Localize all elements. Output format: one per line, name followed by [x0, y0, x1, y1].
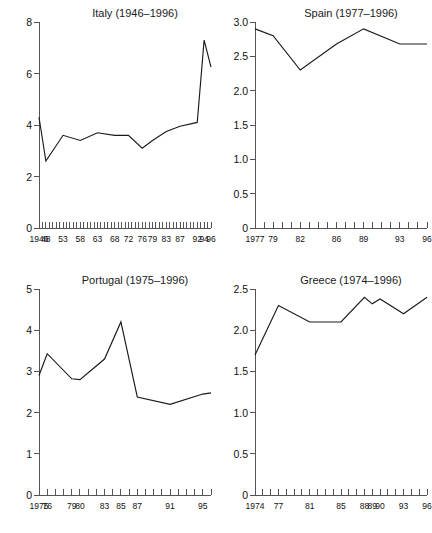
x-tick-label: 85	[336, 501, 346, 511]
chart-svg-spain: Spain (1977–1996)00.51.01.52.02.53.01977…	[216, 0, 432, 266]
y-tick-label: 8	[26, 16, 32, 28]
y-tick-label: 2.0	[233, 324, 248, 336]
y-tick-label: 2.5	[233, 50, 248, 62]
x-tick-label: 93	[395, 234, 405, 244]
y-tick-label: 0.5	[233, 448, 248, 460]
x-tick-label: 68	[110, 234, 120, 244]
y-tick-label: 1.0	[233, 407, 248, 419]
x-tick-label: 58	[76, 234, 86, 244]
chart-data-line	[39, 40, 211, 161]
y-tick-label: 5	[26, 283, 32, 295]
y-tick-label: 2.0	[233, 85, 248, 97]
y-tick-label: 2.5	[233, 283, 248, 295]
x-tick-label: 48	[41, 234, 51, 244]
x-tick-label: 1977	[246, 234, 265, 244]
x-tick-label: 63	[93, 234, 103, 244]
y-tick-label: 3.0	[233, 16, 248, 28]
chart-data-line	[39, 322, 211, 404]
chart-panel-greece: Greece (1974–1996)00.51.01.52.02.5197477…	[216, 267, 432, 533]
chart-panel-portugal: Portugal (1975–1996)01234519757679808385…	[0, 267, 216, 533]
x-tick-label: 1974	[246, 501, 265, 511]
y-tick-label: 0	[242, 489, 248, 501]
x-tick-label: 86	[332, 234, 342, 244]
chart-axes	[255, 289, 427, 495]
y-tick-label: 6	[26, 68, 32, 80]
chart-panel-spain: Spain (1977–1996)00.51.01.52.02.53.01977…	[216, 0, 432, 266]
y-tick-label: 4	[26, 119, 32, 131]
x-tick-label: 76	[42, 501, 52, 511]
chart-panel-italy: Italy (1946–1996)02468194648535863687276…	[0, 0, 216, 266]
x-tick-label: 83	[162, 234, 172, 244]
x-tick-label: 96	[206, 234, 216, 244]
x-tick-label: 91	[165, 501, 175, 511]
chart-svg-greece: Greece (1974–1996)00.51.01.52.02.5197477…	[216, 267, 432, 533]
x-tick-label: 89	[359, 234, 369, 244]
chart-title: Greece (1974–1996)	[300, 274, 402, 286]
x-tick-label: 90	[375, 501, 385, 511]
x-tick-label: 81	[305, 501, 315, 511]
x-tick-label: 93	[399, 501, 409, 511]
chart-svg-portugal: Portugal (1975–1996)01234519757679808385…	[0, 267, 216, 533]
chart-data-line	[255, 297, 427, 355]
y-tick-label: 2	[26, 171, 32, 183]
y-tick-label: 0	[242, 222, 248, 234]
y-tick-label: 1.0	[233, 153, 248, 165]
x-tick-label: 96	[422, 234, 432, 244]
y-tick-label: 0	[26, 489, 32, 501]
chart-title: Portugal (1975–1996)	[82, 274, 188, 286]
chart-axes	[255, 22, 427, 228]
x-tick-label: 87	[133, 501, 143, 511]
y-tick-label: 1.5	[233, 365, 248, 377]
chart-title: Italy (1946–1996)	[92, 7, 178, 19]
x-tick-label: 87	[175, 234, 185, 244]
x-tick-label: 82	[296, 234, 306, 244]
chart-svg-italy: Italy (1946–1996)02468194648535863687276…	[0, 0, 216, 266]
y-tick-label: 3	[26, 365, 32, 377]
x-tick-label: 79	[268, 234, 278, 244]
x-tick-label: 77	[274, 501, 284, 511]
y-tick-label: 0	[26, 222, 32, 234]
chart-data-line	[255, 29, 427, 70]
x-tick-label: 76	[137, 234, 147, 244]
y-tick-label: 1.5	[233, 119, 248, 131]
y-tick-label: 1	[26, 448, 32, 460]
chart-axes	[39, 289, 211, 495]
y-tick-label: 2	[26, 407, 32, 419]
x-tick-label: 96	[422, 501, 432, 511]
y-tick-label: 4	[26, 324, 32, 336]
x-tick-label: 53	[58, 234, 68, 244]
x-tick-label: 95	[198, 501, 208, 511]
y-tick-label: 0.5	[233, 188, 248, 200]
chart-title: Spain (1977–1996)	[304, 7, 398, 19]
x-tick-label: 72	[124, 234, 134, 244]
x-tick-label: 85	[116, 501, 126, 511]
multi-panel-line-chart-figure: Italy (1946–1996)02468194648535863687276…	[0, 0, 432, 533]
x-tick-label: 83	[100, 501, 110, 511]
x-tick-label: 80	[75, 501, 85, 511]
x-tick-label: 79	[148, 234, 158, 244]
